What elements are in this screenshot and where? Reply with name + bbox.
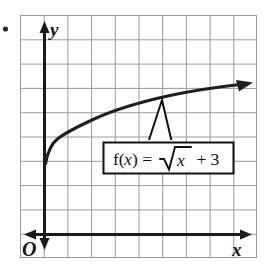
formula-middle: ) = [132, 149, 156, 169]
formula-variable: x [123, 149, 132, 169]
y-axis-label: y [48, 19, 59, 40]
x-axis-label: x [231, 239, 242, 260]
formula-radicand: x [176, 150, 185, 170]
graph-svg: f( x ) = x + 3 y x O [0, 0, 274, 271]
formula-suffix: + 3 [192, 149, 220, 169]
bullet-marker-icon [3, 26, 8, 31]
graph-figure: f( x ) = x + 3 y x O [0, 0, 274, 271]
origin-label: O [22, 238, 36, 260]
